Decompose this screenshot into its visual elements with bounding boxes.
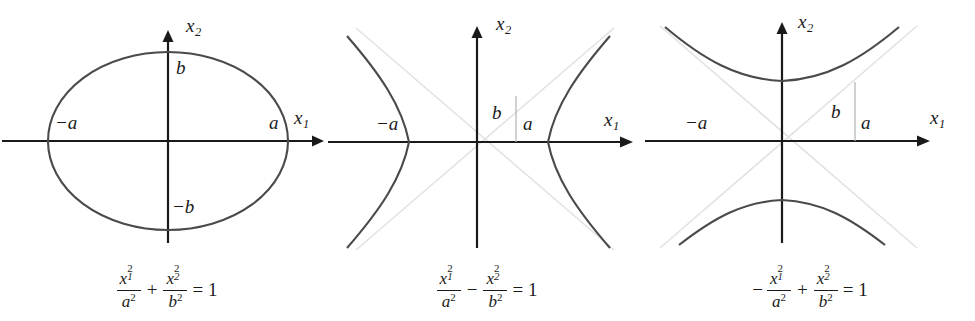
- marker-negative-a: −a: [376, 114, 398, 133]
- fraction-numerator: x22: [483, 266, 507, 290]
- fraction-term-2: x22 b2: [163, 266, 187, 313]
- asymptote-lines: [660, 26, 917, 248]
- equation-operator: −: [466, 279, 479, 301]
- axis-label-x2: x2: [186, 16, 201, 38]
- fraction-denominator: a2: [439, 291, 459, 313]
- panel-ellipse: x2 x1 b a −a −b x21 a2 + x22 b2 = 1: [0, 0, 330, 321]
- fraction-term-2: x22 b2: [814, 266, 838, 313]
- fraction-denominator: a2: [119, 291, 139, 313]
- equation-right-hand-side: = 1: [192, 279, 217, 301]
- marker-negative-b: −b: [172, 197, 194, 216]
- equation-operator: +: [146, 279, 159, 301]
- x2-axis: [777, 22, 788, 243]
- equation-right-hand-side: = 1: [843, 279, 868, 301]
- fraction-term-1: x21 a2: [437, 266, 461, 313]
- axis-label-x2: x2: [798, 12, 813, 34]
- marker-negative-a: −a: [55, 113, 77, 132]
- fraction-term-1: x21 a2: [117, 266, 141, 313]
- equation-right-hand-side: = 1: [512, 279, 537, 301]
- marker-positive-a: a: [269, 113, 279, 132]
- axis-label-x1: x1: [604, 110, 619, 132]
- x1-axis: [2, 136, 324, 147]
- marker-negative-a: −a: [685, 113, 707, 132]
- equation-hyperbola-vertical: − x21 a2 + x22 b2 = 1: [645, 266, 975, 313]
- fraction-numerator: x22: [814, 266, 838, 290]
- marker-positive-a: a: [523, 114, 533, 133]
- equation-hyperbola-horizontal: x21 a2 − x22 b2 = 1: [320, 266, 650, 313]
- panel-hyperbola-vertical: x2 x1 b a −a − x21 a2 + x22 b2 = 1: [645, 0, 975, 321]
- axis-label-x1: x1: [930, 108, 945, 130]
- axis-label-x2: x2: [496, 14, 511, 36]
- fraction-denominator: b2: [485, 291, 505, 313]
- panel-hyperbola-horizontal: x2 x1 b a −a x21 a2 − x22 b2 = 1: [320, 0, 650, 321]
- marker-positive-b: b: [492, 103, 502, 122]
- equation-operator: +: [796, 279, 809, 301]
- fraction-denominator: b2: [165, 291, 185, 313]
- fraction-numerator: x21: [117, 266, 141, 290]
- x1-axis: [328, 137, 633, 148]
- equation-ellipse: x21 a2 + x22 b2 = 1: [0, 266, 330, 313]
- equation-lead-sign: −: [752, 279, 763, 301]
- fraction-term-1: x21 a2: [767, 266, 791, 313]
- conic-sections-figure: x2 x1 b a −a −b x21 a2 + x22 b2 = 1: [0, 0, 975, 321]
- fraction-denominator: b2: [816, 291, 836, 313]
- marker-positive-b: b: [831, 102, 841, 121]
- asymptote-lines: [356, 28, 614, 250]
- x2-axis: [472, 26, 483, 248]
- fraction-numerator: x21: [437, 266, 461, 290]
- fraction-term-2: x22 b2: [483, 266, 507, 313]
- marker-positive-a: a: [861, 113, 871, 132]
- fraction-numerator: x22: [163, 266, 187, 290]
- fraction-denominator: a2: [769, 291, 789, 313]
- marker-positive-b: b: [176, 58, 186, 77]
- axis-label-x1: x1: [294, 108, 309, 130]
- fraction-numerator: x21: [767, 266, 791, 290]
